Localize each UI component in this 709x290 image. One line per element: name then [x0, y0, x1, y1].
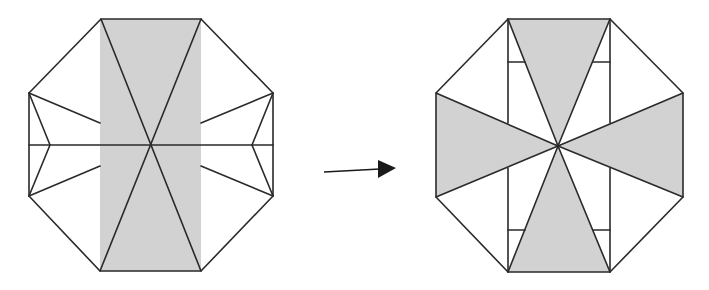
shaded-region-3	[558, 93, 683, 197]
arrow-shaft	[324, 169, 380, 172]
step-after-octagon	[436, 19, 683, 272]
shaded-region-1	[508, 146, 610, 272]
fold-diagram	[0, 0, 709, 290]
shaded-region-2	[436, 93, 558, 197]
shaded-region-0	[508, 19, 610, 146]
step-before-octagon	[29, 19, 273, 271]
transform-arrow-icon	[324, 160, 396, 178]
arrow-head	[378, 160, 396, 178]
